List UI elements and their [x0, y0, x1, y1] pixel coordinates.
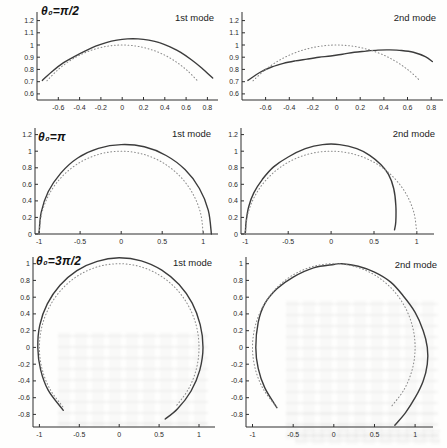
svg-text:-0.6: -0.6 — [18, 394, 30, 401]
svg-text:0.9: 0.9 — [24, 54, 34, 61]
svg-text:0.5: 0.5 — [157, 238, 167, 245]
svg-text:0: 0 — [117, 431, 121, 438]
svg-text:1.2: 1.2 — [24, 17, 34, 24]
svg-text:0.2: 0.2 — [20, 327, 30, 334]
svg-text:1: 1 — [30, 42, 34, 49]
svg-text:-0.2: -0.2 — [307, 104, 319, 111]
svg-text:-0.8: -0.8 — [18, 411, 30, 418]
svg-text:0.2: 0.2 — [233, 327, 243, 334]
svg-text:0.5: 0.5 — [154, 431, 164, 438]
svg-text:0.5: 0.5 — [369, 238, 379, 245]
svg-text:0.8: 0.8 — [228, 164, 238, 171]
svg-text:1: 1 — [26, 260, 30, 267]
svg-text:1.2: 1.2 — [229, 17, 239, 24]
svg-text:-0.5: -0.5 — [74, 238, 86, 245]
svg-text:0: 0 — [120, 104, 124, 111]
svg-text:0.6: 0.6 — [181, 104, 191, 111]
svg-text:0: 0 — [28, 231, 32, 238]
svg-text:0: 0 — [26, 344, 30, 351]
mode-label: 1st mode — [175, 12, 214, 23]
svg-text:-0.5: -0.5 — [287, 431, 299, 438]
svg-text:-0.6: -0.6 — [52, 104, 64, 111]
svg-text:0.6: 0.6 — [229, 90, 239, 97]
svg-text:-1: -1 — [36, 431, 42, 438]
svg-text:1: 1 — [415, 238, 419, 245]
svg-text:0.4: 0.4 — [379, 104, 389, 111]
svg-text:0.4: 0.4 — [22, 197, 32, 204]
svg-text:-0.6: -0.6 — [260, 104, 272, 111]
theta-label: θ₀=π — [38, 130, 66, 144]
svg-text:0.4: 0.4 — [233, 310, 243, 317]
svg-text:1.1: 1.1 — [24, 29, 34, 36]
svg-text:0.7: 0.7 — [24, 78, 34, 85]
svg-text:0.9: 0.9 — [229, 54, 239, 61]
svg-text:-1: -1 — [242, 238, 248, 245]
mode-shapes-figure: -0.6-0.4-0.200.20.40.60.80.60.70.80.911.… — [0, 0, 447, 448]
svg-text:-1: -1 — [36, 238, 42, 245]
svg-text:0.6: 0.6 — [20, 294, 30, 301]
svg-text:-0.5: -0.5 — [282, 238, 294, 245]
svg-text:0.8: 0.8 — [203, 104, 213, 111]
svg-text:-0.4: -0.4 — [18, 377, 30, 384]
mode-label: 2nd mode — [393, 128, 435, 139]
svg-text:1: 1 — [239, 260, 243, 267]
theta-label: θ₀=π/2 — [41, 4, 79, 18]
svg-text:-0.2: -0.2 — [231, 361, 243, 368]
svg-text:0.4: 0.4 — [20, 310, 30, 317]
svg-text:0: 0 — [234, 231, 238, 238]
svg-text:-0.6: -0.6 — [231, 394, 243, 401]
svg-text:-0.2: -0.2 — [95, 104, 107, 111]
svg-text:0.8: 0.8 — [426, 104, 436, 111]
svg-text:1: 1 — [201, 238, 205, 245]
svg-text:0.6: 0.6 — [233, 294, 243, 301]
mode-label: 2nd mode — [394, 12, 436, 23]
svg-text:0.4: 0.4 — [160, 104, 170, 111]
svg-text:-0.8: -0.8 — [231, 411, 243, 418]
svg-text:0.6: 0.6 — [228, 181, 238, 188]
svg-text:-1: -1 — [249, 431, 255, 438]
svg-text:-0.2: -0.2 — [18, 361, 30, 368]
svg-text:0: 0 — [119, 238, 123, 245]
svg-text:-0.4: -0.4 — [231, 377, 243, 384]
svg-text:1.2: 1.2 — [228, 131, 238, 138]
svg-text:0.2: 0.2 — [355, 104, 365, 111]
mode-label: 1st mode — [173, 257, 212, 268]
mode-label: 1st mode — [172, 128, 211, 139]
subplot-theta-pi-mode1: -1-0.500.5100.20.40.60.811.2 θ₀=π 1st mo… — [0, 118, 224, 253]
subplot-theta-pi-half-mode2: -0.6-0.4-0.200.20.40.60.80.60.70.80.911.… — [224, 0, 447, 118]
svg-text:1.2: 1.2 — [22, 131, 32, 138]
subplot-theta-3pi-half-mode1: -1-0.500.51-0.8-0.6-0.4-0.200.20.40.60.8… — [0, 253, 224, 448]
svg-text:0.4: 0.4 — [228, 197, 238, 204]
svg-text:0.8: 0.8 — [20, 277, 30, 284]
svg-text:1.1: 1.1 — [229, 29, 239, 36]
axes-theta-3pi-half-mode1: -1-0.500.51-0.8-0.6-0.4-0.200.20.40.60.8… — [0, 253, 224, 448]
svg-text:0: 0 — [335, 104, 339, 111]
svg-text:-0.4: -0.4 — [283, 104, 295, 111]
svg-text:1: 1 — [234, 148, 238, 155]
svg-text:0.6: 0.6 — [403, 104, 413, 111]
svg-text:0.7: 0.7 — [229, 78, 239, 85]
svg-text:1: 1 — [235, 42, 239, 49]
theta-label: θ₀=3π/2 — [36, 254, 81, 268]
subplot-theta-3pi-half-mode2: -1-0.500.51-0.8-0.6-0.4-0.200.20.40.60.8… — [224, 253, 447, 448]
svg-text:0.6: 0.6 — [22, 181, 32, 188]
subplot-theta-pi-half-mode1: -0.6-0.4-0.200.20.40.60.80.60.70.80.911.… — [0, 0, 224, 118]
svg-text:1: 1 — [413, 431, 417, 438]
svg-text:0.8: 0.8 — [229, 66, 239, 73]
svg-text:0: 0 — [332, 431, 336, 438]
svg-text:1: 1 — [197, 431, 201, 438]
svg-text:0.8: 0.8 — [24, 66, 34, 73]
subplot-theta-pi-mode2: -1-0.500.5100.20.40.60.811.2 2nd mode — [224, 118, 447, 253]
svg-text:0.2: 0.2 — [228, 214, 238, 221]
svg-text:0.8: 0.8 — [233, 277, 243, 284]
svg-text:0.5: 0.5 — [370, 431, 380, 438]
svg-text:0.8: 0.8 — [22, 164, 32, 171]
svg-text:0.2: 0.2 — [22, 214, 32, 221]
svg-text:0.6: 0.6 — [24, 90, 34, 97]
axes-theta-3pi-half-mode2: -1-0.500.51-0.8-0.6-0.4-0.200.20.40.60.8… — [224, 253, 447, 448]
mode-label: 2nd mode — [395, 259, 437, 270]
svg-text:0: 0 — [329, 238, 333, 245]
svg-text:-0.5: -0.5 — [73, 431, 85, 438]
svg-text:-0.4: -0.4 — [74, 104, 86, 111]
svg-text:0: 0 — [239, 344, 243, 351]
